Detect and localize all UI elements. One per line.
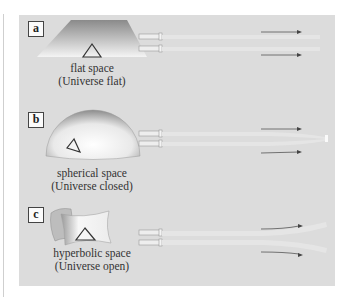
laser-upper bbox=[139, 130, 162, 137]
arrow-lower bbox=[261, 150, 302, 154]
flat-beams bbox=[19, 15, 335, 105]
laser-upper bbox=[139, 229, 162, 236]
laser-lower bbox=[139, 45, 162, 52]
arrow-lower bbox=[261, 53, 302, 57]
figure-panel: a flat space (Universe flat) bbox=[19, 15, 335, 286]
beam-lower bbox=[162, 240, 327, 253]
laser-lower bbox=[139, 140, 162, 147]
laser-upper bbox=[139, 33, 162, 40]
beam-upper bbox=[162, 35, 320, 39]
row-hyperbolic-space: c hyperbolic space (Universe open) bbox=[19, 195, 335, 286]
arrow-upper bbox=[261, 30, 302, 34]
row-spherical-space: b spherical space (Universe closed) bbox=[19, 105, 335, 195]
arrow-lower bbox=[261, 252, 303, 257]
beam-lower bbox=[162, 47, 320, 51]
hyperbolic-beams bbox=[19, 195, 335, 286]
beam-convergence-point bbox=[325, 135, 328, 142]
margin-rule bbox=[3, 14, 4, 297]
beam-upper bbox=[162, 222, 327, 236]
spherical-beams bbox=[19, 105, 335, 195]
arrow-upper bbox=[261, 127, 302, 131]
beam-lower bbox=[162, 139, 325, 146]
laser-lower bbox=[139, 239, 162, 246]
row-flat-space: a flat space (Universe flat) bbox=[19, 15, 335, 105]
beam-upper bbox=[162, 132, 325, 139]
